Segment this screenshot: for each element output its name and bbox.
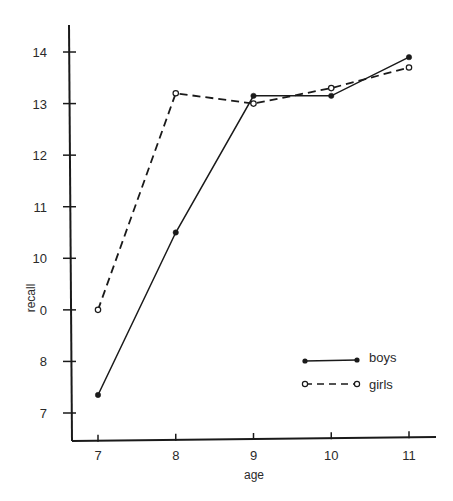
data-point-girls: [329, 85, 334, 90]
x-tick-label: 8: [172, 448, 179, 463]
data-point-girls: [95, 307, 100, 312]
line-chart: 7801011121314 7891011 age recall boys gi…: [0, 0, 453, 501]
y-tick-label: 14: [33, 45, 47, 60]
legend-girls-marker-icon: [354, 381, 359, 386]
legend-item-boys: boys: [302, 350, 397, 365]
y-tick-label: 12: [33, 148, 47, 163]
legend: boys girls: [302, 350, 397, 392]
data-point-boys: [251, 93, 256, 98]
x-axis-title: age: [244, 468, 264, 482]
legend-boys-label: boys: [369, 350, 397, 365]
x-tick-label: 10: [324, 448, 338, 463]
y-tick-label: 13: [33, 97, 47, 112]
legend-boys-marker-icon: [354, 357, 359, 362]
data-point-girls: [251, 101, 256, 106]
data-point-boys: [95, 392, 100, 397]
legend-boys-marker-icon: [302, 358, 307, 363]
data-point-boys: [173, 230, 178, 235]
series-line-boys: [98, 57, 409, 395]
x-tick-label: 9: [250, 448, 257, 463]
data-point-girls: [173, 91, 178, 96]
x-ticks: 7891011: [94, 431, 415, 463]
legend-girls-marker-icon: [302, 381, 307, 386]
legend-boys-line: [305, 360, 357, 361]
series-layer: [95, 54, 411, 397]
series-girls: [95, 65, 411, 313]
y-axis-title: recall: [24, 284, 38, 313]
legend-item-girls: girls: [302, 377, 393, 392]
x-tick-label: 11: [402, 448, 416, 463]
data-point-girls: [406, 65, 411, 70]
y-tick-label: 11: [34, 200, 48, 215]
y-tick-label: 7: [40, 406, 47, 421]
y-tick-label: 10: [33, 251, 47, 266]
y-tick-label: 8: [40, 354, 47, 369]
y-axis: [69, 25, 72, 441]
legend-girls-label: girls: [369, 377, 393, 392]
x-tick-label: 7: [94, 448, 101, 463]
y-tick-label: 0: [40, 303, 47, 318]
data-point-boys: [406, 54, 411, 59]
data-point-boys: [329, 93, 334, 98]
